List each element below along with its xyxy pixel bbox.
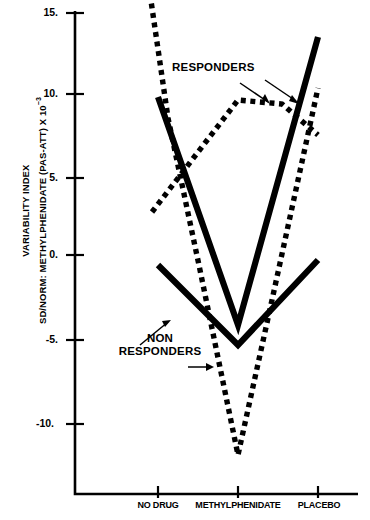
- plot-area: [0, 0, 370, 520]
- annotation-arrows-non-responders: [140, 320, 214, 371]
- annotation-arrows-responders: [240, 80, 299, 104]
- x-tick-marks: [158, 486, 318, 498]
- chart-figure: VARIABILITY INDEX SD/NORM: METHYLPHENIDA…: [0, 0, 370, 520]
- series-line-non-responders-dotted: [150, 0, 318, 455]
- axis-spine: [75, 11, 358, 494]
